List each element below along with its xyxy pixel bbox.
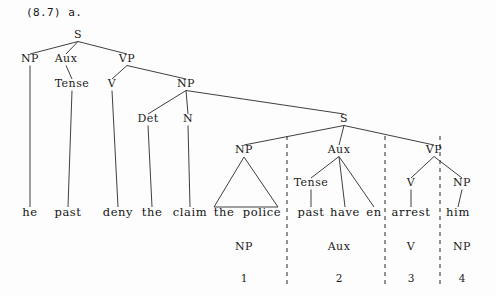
terminal-words: hepastdenytheclaimthepolicepasthaveenarr…: [22, 205, 470, 219]
leaf-branch-det-obj-to-word-the-1: [148, 126, 152, 208]
word-police: police: [243, 205, 282, 219]
leaf-branch-tense-main-to-word-past-1: [68, 91, 72, 208]
node-np-subj: NP: [21, 52, 39, 65]
node-v-main: V: [107, 77, 117, 90]
index-2: 2: [336, 272, 343, 284]
word-the-1: the: [142, 205, 163, 219]
foot-aux: Aux: [327, 240, 351, 253]
word-past-2: past: [297, 205, 324, 219]
word-the-2: the: [214, 205, 235, 219]
node-s-top: S: [74, 28, 82, 41]
word-claim: claim: [173, 205, 208, 219]
word-he: he: [22, 205, 37, 219]
tree-branch-lines: [30, 42, 462, 208]
branch-s-embed-to-vp-embed: [344, 126, 434, 146]
foot-np-1: NP: [235, 240, 253, 253]
branch-np-obj-to-s-embed: [186, 91, 344, 115]
node-n-obj: N: [183, 112, 193, 125]
word-past-1: past: [54, 205, 81, 219]
branch-vp-embed-to-np-embed-obj: [434, 157, 462, 179]
node-det-obj: Det: [137, 112, 158, 125]
branch-aux-embed-to-tense-embed: [311, 157, 339, 179]
branch-np-obj-to-det-obj: [148, 91, 186, 115]
node-np-obj: NP: [177, 77, 195, 90]
foot-np-2: NP: [453, 240, 471, 253]
index-4: 4: [459, 272, 466, 284]
node-tense-embed: Tense: [294, 176, 329, 189]
word-deny: deny: [103, 205, 133, 219]
node-aux-embed: Aux: [327, 143, 351, 156]
word-arrest: arrest: [392, 205, 431, 219]
branch-vp-embed-to-v-embed: [411, 157, 434, 179]
index-3: 3: [408, 272, 415, 284]
tree-triangles: [214, 157, 278, 207]
word-have: have: [330, 205, 360, 219]
leaf-branch-v-main-to-word-deny: [112, 91, 118, 208]
tree-node-labels: SNPAuxVPTenseVNPDetNSNPAuxVPTenseVNP: [21, 28, 471, 189]
node-v-embed: V: [406, 176, 416, 189]
node-np-embed: NP: [235, 143, 253, 156]
np-embed-triangle: [214, 157, 278, 207]
node-vp-embed: VP: [425, 143, 442, 156]
leaf-branch-n-obj-to-word-claim: [188, 126, 190, 208]
node-vp-main: VP: [118, 52, 135, 65]
constituent-footer-row: NPAuxVNP1234: [235, 240, 471, 284]
branch-np-obj-to-n-obj: [186, 91, 188, 115]
node-tense-main: Tense: [55, 77, 90, 90]
syntax-tree-canvas: SNPAuxVPTenseVNPDetNSNPAuxVPTenseVNP hep…: [0, 0, 496, 296]
foot-v: V: [406, 240, 416, 253]
node-s-embed: S: [340, 112, 348, 125]
word-him: him: [446, 205, 470, 219]
index-1: 1: [241, 272, 248, 284]
syntax-tree-figure: (8.7) a. SNPAuxVPTenseVNPDetNSNPAuxVPTen…: [0, 0, 496, 296]
node-aux-main: Aux: [54, 52, 78, 65]
node-np-embed-obj: NP: [453, 176, 471, 189]
word-en: en: [366, 205, 381, 219]
